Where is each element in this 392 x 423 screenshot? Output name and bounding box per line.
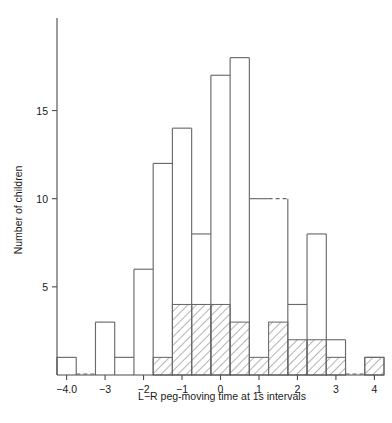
bar-open-1 [76,357,95,375]
bar-hatched-14 [326,357,345,375]
histogram-plot: 51015−4.0−3−2−101234 Number of children … [0,0,392,423]
x-axis-title: L−R peg-moving time at 1s intervals [138,390,306,402]
bar-open-10 [249,58,268,375]
x-tick-label-8: 4 [371,383,377,395]
y-axis-title: Number of children [12,165,24,254]
histogram-figure: 51015−4.0−3−2−101234 Number of children … [0,0,392,423]
bar-open-14 [326,234,345,375]
bar-hatched-16 [365,357,384,375]
bar-open-15 [346,340,365,375]
y-tick-label-15: 15 [36,105,48,117]
bar-hatched-10 [249,357,268,375]
bar-open-4 [134,269,153,375]
x-tick-label-1: −3 [99,383,111,395]
bars-layer [57,58,384,375]
y-tick-label-10: 10 [36,193,48,205]
bar-hatched-8 [211,304,230,375]
bar-open-3 [115,322,134,375]
bar-hatched-11 [269,322,288,375]
bar-open-0 [57,357,76,375]
x-tick-label-7: 3 [333,383,339,395]
x-tick-label-0: −4.0 [56,383,77,395]
bar-open-5 [153,163,172,375]
bar-hatched-5 [153,357,172,375]
bar-hatched-12 [288,340,307,375]
bar-hatched-13 [307,340,326,375]
bar-hatched-9 [230,322,249,375]
bar-open-2 [95,322,114,375]
bar-hatched-7 [192,304,211,375]
bar-hatched-6 [172,304,191,375]
y-tick-label-5: 5 [42,281,48,293]
